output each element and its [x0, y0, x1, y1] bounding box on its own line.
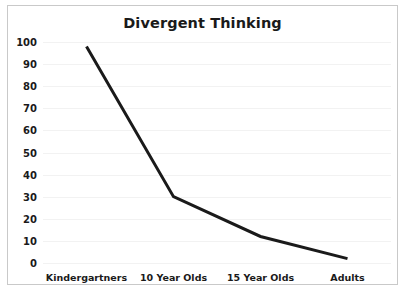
y-axis-tick-label: 40 — [23, 169, 37, 180]
y-axis-tick-label: 90 — [23, 59, 37, 70]
gridline — [43, 263, 391, 264]
x-axis-tick-label: 10 Year Olds — [140, 272, 207, 283]
chart-frame: Divergent Thinking 010203040506070809010… — [7, 5, 398, 285]
line-series — [43, 42, 391, 263]
y-axis-tick-label: 20 — [23, 213, 37, 224]
y-axis-tick-label: 10 — [23, 235, 37, 246]
y-axis-tick-label: 50 — [23, 147, 37, 158]
y-axis-tick-label: 0 — [30, 258, 37, 269]
y-axis-tick-label: 80 — [23, 81, 37, 92]
y-axis-tick-label: 30 — [23, 191, 37, 202]
y-axis-tick-label: 70 — [23, 103, 37, 114]
chart-title: Divergent Thinking — [8, 15, 397, 31]
series-polyline — [87, 46, 348, 258]
plot-area: 0102030405060708090100 Kindergartners10 … — [43, 42, 391, 263]
x-axis-tick-label: Adults — [330, 272, 364, 283]
x-axis-tick-label: Kindergartners — [46, 272, 127, 283]
x-axis-tick-label: 15 Year Olds — [227, 272, 294, 283]
y-axis-tick-label: 60 — [23, 125, 37, 136]
y-axis-tick-label: 100 — [16, 37, 37, 48]
chart-container: Divergent Thinking 010203040506070809010… — [0, 0, 407, 297]
